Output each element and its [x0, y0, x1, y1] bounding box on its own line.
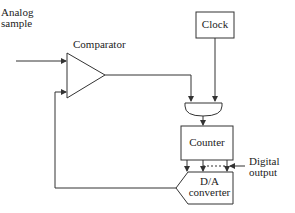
clock-label: Clock	[196, 19, 234, 30]
feedback-line	[55, 92, 176, 188]
and-gate-symbol	[185, 103, 222, 116]
digital-label-line2: output	[249, 167, 280, 178]
comparator-label: Comparator	[73, 39, 126, 50]
dac-label-line2: converter	[186, 187, 233, 198]
digital-output-label: Digital output	[249, 156, 280, 178]
analog-label-line2: sample	[1, 18, 33, 29]
comparator-symbol	[67, 53, 105, 98]
comparator-to-gate-line	[105, 75, 191, 101]
dac-label: D/A converter	[186, 176, 233, 198]
analog-sample-label: Analog sample	[1, 7, 33, 29]
counter-label: Counter	[181, 137, 233, 148]
block-diagram	[0, 0, 295, 213]
